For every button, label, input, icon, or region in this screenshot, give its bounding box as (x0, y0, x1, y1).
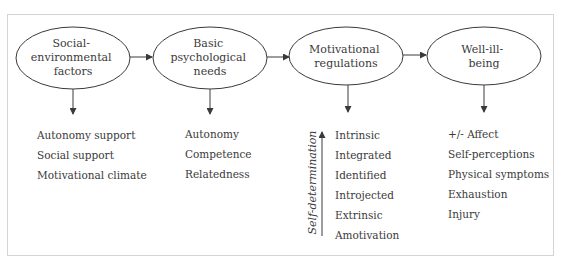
list-item: +/- Affect (448, 124, 549, 144)
node-label-line: regulations (314, 57, 378, 70)
node-label-line: factors (54, 65, 93, 78)
node-label-line: needs (194, 65, 227, 78)
node-basic-psychological-needs: Basic psychological needs (153, 27, 267, 89)
list-item: Integrated (335, 145, 399, 165)
list-item: Relatedness (185, 164, 252, 184)
list-item: Exhaustion (448, 184, 549, 204)
list-item: Identified (335, 165, 399, 185)
node-label-line: Motivational (309, 43, 380, 56)
list-item: Injury (448, 204, 549, 224)
list-well-ill-being: +/- Affect Self-perceptions Physical sym… (448, 124, 549, 224)
node-social-environmental-factors: Social- environmental factors (16, 27, 130, 89)
list-item: Introjected (335, 185, 399, 205)
list-item: Physical symptoms (448, 164, 549, 184)
list-basic-psychological-needs: Autonomy Competence Relatedness (185, 124, 252, 184)
list-item: Intrinsic (335, 125, 399, 145)
list-item: Autonomy support (37, 125, 147, 145)
node-label-line: being (468, 57, 499, 70)
self-determination-axis-label: Self-determination (306, 135, 319, 235)
list-social-environmental-factors: Autonomy support Social support Motivati… (37, 125, 147, 185)
node-label-line: Basic (193, 37, 223, 50)
node-ellipse (427, 27, 541, 85)
list-item: Amotivation (335, 225, 399, 245)
list-item: Social support (37, 145, 147, 165)
node-label-line: Well-ill- (461, 43, 503, 56)
list-item: Autonomy (185, 124, 252, 144)
node-well-ill-being: Well-ill- being (427, 27, 541, 85)
node-ellipse (289, 27, 403, 85)
node-motivational-regulations: Motivational regulations (289, 27, 403, 85)
node-label-line: Social- (52, 37, 90, 50)
list-item: Competence (185, 144, 252, 164)
node-label: Motivational regulations (309, 43, 383, 70)
list-item: Extrinsic (335, 205, 399, 225)
node-label-line: psychological (170, 51, 246, 64)
list-item: Motivational climate (37, 165, 147, 185)
node-label-line: environmental (31, 51, 112, 64)
list-motivational-regulations: Intrinsic Integrated Identified Introjec… (335, 125, 399, 245)
list-item: Self-perceptions (448, 144, 549, 164)
